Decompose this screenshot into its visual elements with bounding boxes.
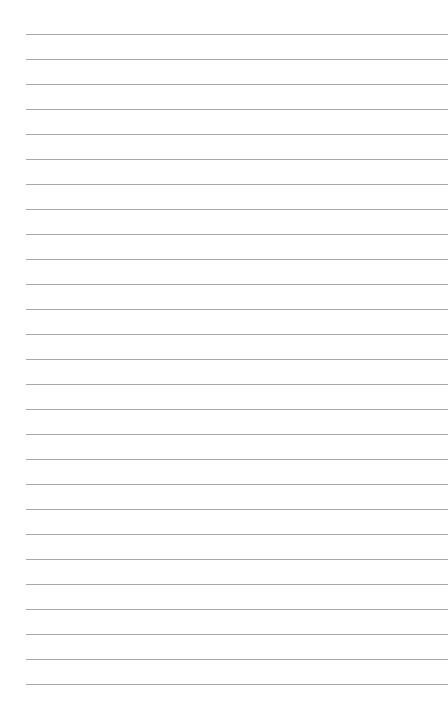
ruled-line xyxy=(26,534,448,535)
ruled-line xyxy=(26,609,448,610)
ruled-line xyxy=(26,34,448,35)
ruled-line xyxy=(26,184,448,185)
ruled-line xyxy=(26,59,448,60)
ruled-line xyxy=(26,584,448,585)
ruled-line xyxy=(26,159,448,160)
ruled-line xyxy=(26,459,448,460)
ruled-line xyxy=(26,309,448,310)
ruled-line xyxy=(26,434,448,435)
ruled-line xyxy=(26,359,448,360)
ruled-line xyxy=(26,259,448,260)
ruled-line xyxy=(26,134,448,135)
ruled-line xyxy=(26,109,448,110)
ruled-line xyxy=(26,684,448,685)
ruled-line xyxy=(26,559,448,560)
ruled-line xyxy=(26,209,448,210)
ruled-line xyxy=(26,409,448,410)
ruled-line xyxy=(26,234,448,235)
ruled-line xyxy=(26,659,448,660)
ruled-line xyxy=(26,84,448,85)
ruled-line xyxy=(26,484,448,485)
ruled-line xyxy=(26,384,448,385)
ruled-line xyxy=(26,634,448,635)
ruled-line xyxy=(26,334,448,335)
lined-paper-page xyxy=(0,0,448,714)
ruled-line xyxy=(26,284,448,285)
ruled-line xyxy=(26,509,448,510)
